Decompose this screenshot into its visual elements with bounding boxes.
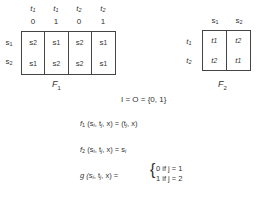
f2-cell: t2 — [203, 51, 226, 71]
f2-cell: t1 — [227, 51, 251, 71]
f2-cell: t2 — [227, 31, 251, 51]
f1-col-header-x: 1 — [44, 17, 68, 27]
f2-row-header: t1 — [180, 37, 198, 48]
f1-cell: s1 — [92, 32, 115, 53]
f1-title: F1 — [52, 79, 61, 91]
f1-cell: s1 — [22, 53, 44, 74]
f1-column: s1 s1 — [92, 32, 115, 74]
f1-col-header-t: t1 — [21, 4, 45, 15]
f1-row-header: s1 — [0, 38, 18, 49]
left-brace-icon: { — [150, 163, 155, 177]
f1-cell: s2 — [45, 53, 67, 74]
f1-col-header-t: t1 — [44, 4, 68, 15]
f1-col-header-x: 0 — [67, 17, 91, 27]
f2-column: t1 t2 — [203, 31, 227, 70]
f1-column: s1 s2 — [45, 32, 68, 74]
io-equation: I = O = {0, 1} — [121, 95, 166, 104]
f1-column: s2 s2 — [69, 32, 92, 74]
f2-row-header: t2 — [180, 56, 198, 67]
g-equation: g (si, tj, x) = — [80, 171, 118, 180]
g-case-2: 1 if j = 2 — [156, 174, 182, 183]
f2-col-header: s2 — [227, 16, 251, 27]
f2-title: F2 — [218, 79, 227, 91]
f1-col-header-x: 0 — [21, 17, 45, 27]
g-case-1: 0 if j = 1 — [156, 164, 182, 173]
f1-cell: s2 — [69, 32, 91, 53]
f1-cell: s1 — [45, 32, 67, 53]
f1-column: s2 s1 — [22, 32, 45, 74]
f1-cell: s1 — [92, 53, 115, 74]
f2-table: t1 t2 t2 t1 — [202, 30, 251, 71]
f2-cell: t1 — [203, 31, 226, 51]
f1-col-header-t: t2 — [67, 4, 91, 15]
f2-col-header: s1 — [203, 16, 227, 27]
f1-row-header: s2 — [0, 57, 18, 68]
f2-column: t2 t1 — [227, 31, 251, 70]
f1-cell: s2 — [22, 32, 44, 53]
f1-col-header-t: t2 — [91, 4, 115, 15]
f1-table: s2 s1 s1 s2 s2 s2 s1 s1 — [21, 31, 116, 75]
f1-col-header-x: 1 — [91, 17, 115, 27]
f1-equation: f1 (si, tj, x) = (tj, x) — [80, 119, 137, 128]
f1-cell: s2 — [69, 53, 91, 74]
f2-equation: f2 (si, tj, x) = si — [80, 145, 126, 154]
